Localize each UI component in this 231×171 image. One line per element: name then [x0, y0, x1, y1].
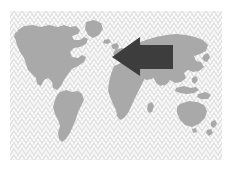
continent-british-isles — [111, 43, 119, 50]
continent-greenland — [85, 20, 103, 38]
continent-tasmania — [192, 128, 197, 133]
continent-north-america — [15, 25, 88, 90]
continent-new-zealand — [211, 120, 217, 128]
map-stage — [0, 0, 231, 171]
left-pointing-arrow — [112, 37, 173, 76]
continent-australia — [177, 101, 207, 127]
continent-alaska — [14, 30, 29, 40]
continent-india — [158, 66, 174, 86]
continent-new-zealand-south — [206, 129, 213, 136]
continent-new-guinea — [197, 92, 211, 99]
continent-africa — [108, 63, 148, 120]
world-map-arrow-graphic — [0, 0, 231, 171]
continent-philippines — [192, 76, 198, 84]
left-pointing-arrow-group — [112, 37, 173, 76]
continent-iceland — [103, 39, 111, 44]
continents-group — [14, 20, 217, 142]
continent-south-america — [53, 90, 84, 142]
continent-indonesia — [175, 86, 199, 94]
continent-arabia — [139, 64, 156, 80]
continent-madagascar — [147, 102, 154, 113]
continent-japan — [202, 53, 210, 62]
continent-asia — [135, 34, 208, 86]
world-map-svg — [0, 0, 231, 171]
continent-europe — [113, 48, 138, 62]
